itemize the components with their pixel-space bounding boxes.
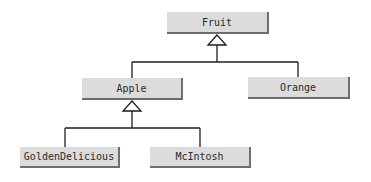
class-node-orange: Orange [248,77,350,99]
class-label: Fruit [202,17,232,28]
class-node-apple: Apple [82,78,183,100]
class-label: Orange [280,82,316,93]
class-label: Apple [116,83,146,94]
class-node-fruit: Fruit [167,12,269,34]
class-label: GoldenDelicious [24,151,114,162]
class-label: McIntosh [175,151,223,162]
generalization-arrow-apple [123,101,141,111]
generalization-arrow-fruit [208,35,226,45]
class-node-golden-delicious: GoldenDelicious [20,147,120,168]
class-node-mcintosh: McIntosh [150,147,251,168]
class-hierarchy-diagram: Fruit Apple Orange GoldenDelicious McInt… [0,0,371,182]
